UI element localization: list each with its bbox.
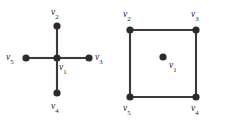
graph-vertex-v5 [126,93,133,100]
vertex-label-subscript: 1 [173,66,176,73]
vertex-label-v4: v4 [51,102,59,112]
vertex-label-subscript: 3 [195,15,198,22]
graph-vertex-v3 [85,54,92,61]
vertex-label-subscript: 2 [127,15,130,22]
graph-vertex-v1 [53,54,60,61]
vertex-label-v3: v3 [95,53,103,63]
graph-vertex-v5 [22,54,29,61]
vertex-label-subscript: 1 [63,68,66,75]
vertex-label-subscript: 3 [99,58,102,65]
vertex-label-v1: v1 [169,61,177,71]
vertex-label-v5: v5 [123,104,131,114]
vertex-label-v1: v1 [59,63,67,73]
vertex-label-subscript: 5 [127,109,130,116]
graph-vertex-v1 [159,53,166,60]
vertex-label-v5: v5 [6,53,14,63]
graph-vertex-v4 [53,89,60,96]
vertex-label-v2: v2 [123,10,131,20]
graph-figure: v1v2v3v4v5 v1v2v3v4v5 [0,0,225,123]
vertex-label-subscript: 5 [10,58,13,65]
vertex-label-v4: v4 [191,104,199,114]
vertex-label-subscript: 4 [195,109,198,116]
graph-vertex-v4 [192,93,199,100]
vertex-label-v2: v2 [51,8,59,18]
cycle-graph-panel: v1v2v3v4v5 [112,0,225,123]
vertex-label-subscript: 4 [55,107,58,114]
graph-vertex-v3 [192,26,199,33]
vertex-label-v3: v3 [191,10,199,20]
star-graph-panel: v1v2v3v4v5 [0,0,112,123]
graph-vertex-v2 [53,22,60,29]
vertex-label-subscript: 2 [55,13,58,20]
graph-vertex-v2 [126,26,133,33]
